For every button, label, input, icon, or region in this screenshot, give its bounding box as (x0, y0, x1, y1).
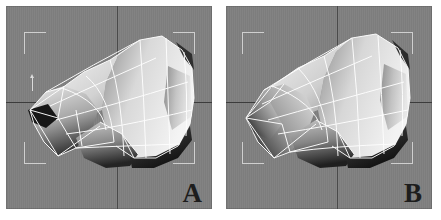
axis-gizmo-icon (30, 74, 36, 92)
polygon-mesh-a (6, 6, 212, 209)
panel-label-a: A (183, 180, 203, 207)
crosshair-vertical-a (117, 6, 118, 209)
panel-label-b: B (404, 180, 422, 207)
polygon-mesh-b (226, 6, 432, 209)
selection-bracket-b[interactable] (242, 32, 413, 164)
crosshair-horizontal-b (226, 102, 432, 103)
pivot-marker-icon (52, 108, 63, 113)
figure-root: A (0, 0, 441, 220)
perspective-viewport-b[interactable]: B (226, 6, 432, 209)
crosshair-vertical-b (337, 6, 338, 209)
viewport-background-texture (226, 6, 432, 209)
perspective-viewport-a[interactable]: A (6, 6, 212, 209)
crosshair-horizontal-a (6, 102, 212, 103)
viewport-background-texture (6, 6, 212, 209)
selection-bracket-a[interactable] (24, 32, 195, 164)
